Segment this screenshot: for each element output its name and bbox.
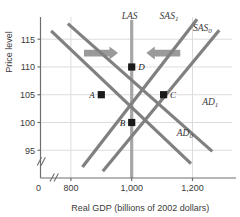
curve-label-las: LAS <box>121 11 138 21</box>
y-tick-label-105: 105 <box>20 90 35 100</box>
data-point-B <box>128 119 135 126</box>
y-tick-label-110: 110 <box>21 62 35 72</box>
curve-label-subscript: 0 <box>208 27 212 35</box>
x-tick-label-0: 0 <box>36 183 41 193</box>
curve-label-ad1: AD1 <box>201 97 218 109</box>
curve-label-text: LAS <box>121 11 138 21</box>
chart-canvas: 1151101051009508001,0001,200 LASSAS1SAS0… <box>0 0 240 217</box>
tick-labels-group: 1151101051009508001,0001,200 <box>20 35 204 193</box>
curve-label-subscript: 1 <box>175 15 179 23</box>
x-tick-label-1,000: 1,000 <box>120 183 143 193</box>
data-point-label-D: D <box>137 62 145 72</box>
curve-label-subscript: 0 <box>189 132 193 140</box>
data-point-C <box>160 91 167 98</box>
curve-label-text: AD <box>201 97 215 107</box>
data-point-label-C: C <box>170 90 177 100</box>
data-point-A <box>98 91 105 98</box>
curve-label-text: SAS <box>160 11 176 21</box>
data-point-label-A: A <box>88 90 95 100</box>
curves-group <box>51 19 219 171</box>
x-tick-label-1,200: 1,200 <box>181 183 204 193</box>
x-tick-label-800: 800 <box>63 183 78 193</box>
data-point-label-B: B <box>120 118 126 128</box>
curve-label-sas1: SAS1 <box>160 11 179 23</box>
x-axis-title: Real GDP (billions of 2002 dollars) <box>71 203 209 213</box>
economics-ad-as-chart: 1151101051009508001,0001,200 LASSAS1SAS0… <box>0 0 240 217</box>
curve-label-ad0: AD0 <box>176 128 194 140</box>
curve-label-text: SAS <box>193 23 209 33</box>
curve-labels-group: LASSAS1SAS0AD1AD0 <box>121 11 219 140</box>
y-axis-break-1 <box>41 157 45 165</box>
y-tick-label-100: 100 <box>20 118 35 128</box>
data-point-D <box>128 63 135 70</box>
y-tick-label-95: 95 <box>25 146 35 156</box>
curve-label-subscript: 1 <box>215 101 219 109</box>
y-tick-label-115: 115 <box>21 35 35 45</box>
curve-label-text: AD <box>176 128 190 138</box>
curve-label-sas0: SAS0 <box>193 23 212 35</box>
y-axis-title: Price level <box>4 31 14 73</box>
